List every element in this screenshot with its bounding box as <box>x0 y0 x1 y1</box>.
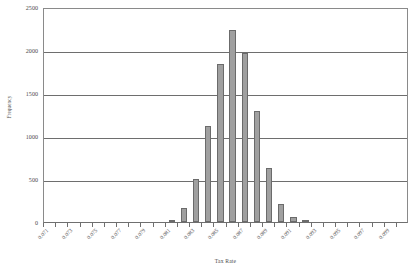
x-axis-tick <box>201 223 202 227</box>
x-axis-tick-label: 0.085 <box>204 228 221 245</box>
x-axis-tick <box>384 223 385 227</box>
bar <box>266 168 272 222</box>
y-axis-tick-label: 0 <box>12 220 38 226</box>
x-axis-tick-label: 0.081 <box>155 228 172 245</box>
x-axis-tick <box>335 223 336 227</box>
x-axis-tick-label: 0.083 <box>179 228 196 245</box>
y-axis-tick-label: 500 <box>12 177 38 183</box>
x-axis-tick <box>372 223 373 227</box>
x-axis-tick-label: 0.079 <box>131 228 148 245</box>
x-axis-tick <box>226 223 227 227</box>
x-axis-tick <box>311 223 312 227</box>
bar <box>290 217 296 222</box>
x-axis-tick-label: 0.077 <box>106 228 123 245</box>
bar <box>217 64 223 222</box>
x-axis-tick <box>177 223 178 227</box>
x-axis-tick <box>347 223 348 227</box>
y-axis-tick-label: 2000 <box>12 48 38 54</box>
x-axis-tick-label: 0.075 <box>82 228 99 245</box>
x-axis-tick <box>213 223 214 227</box>
bar <box>229 30 235 222</box>
x-axis-tick <box>104 223 105 227</box>
y-axis-tick-label: 1000 <box>12 134 38 140</box>
x-axis-tick <box>92 223 93 227</box>
x-axis-tick-labels: 0.0710.0730.0750.0770.0790.0810.0830.085… <box>43 228 408 256</box>
x-axis-tick <box>55 223 56 227</box>
x-axis-tick <box>250 223 251 227</box>
x-axis-tick <box>80 223 81 227</box>
y-axis-tick-label: 1500 <box>12 91 38 97</box>
plot-area <box>43 8 408 223</box>
x-axis-tick-label: 0.089 <box>252 228 269 245</box>
x-axis-tick <box>359 223 360 227</box>
x-axis-tick-label: 0.097 <box>350 228 367 245</box>
x-axis-tick <box>140 223 141 227</box>
histogram-chart: Frequency 25002000150010005000 0.0710.07… <box>0 0 415 272</box>
x-axis-tick <box>274 223 275 227</box>
x-axis-tick <box>43 223 44 227</box>
x-axis-title: Tax Rate <box>43 258 408 264</box>
x-axis-tick <box>396 223 397 227</box>
x-axis-tick <box>116 223 117 227</box>
x-axis-tick-label: 0.095 <box>325 228 342 245</box>
x-axis-tick <box>323 223 324 227</box>
y-axis-tick-label: 2500 <box>12 5 38 11</box>
bar <box>193 179 199 222</box>
x-axis-tick <box>262 223 263 227</box>
bar <box>169 220 175 222</box>
x-axis-tick-label: 0.087 <box>228 228 245 245</box>
x-axis-tick <box>128 223 129 227</box>
x-axis-tick <box>165 223 166 227</box>
x-axis-tick <box>299 223 300 227</box>
bar <box>278 204 284 222</box>
x-axis-tick-label: 0.073 <box>58 228 75 245</box>
y-axis-tick-labels: 25002000150010005000 <box>8 0 38 272</box>
bar-series <box>44 9 407 222</box>
x-axis-tick <box>67 223 68 227</box>
x-axis-tick <box>153 223 154 227</box>
bar <box>242 53 248 222</box>
x-axis-tick <box>286 223 287 227</box>
bar <box>254 111 260 222</box>
x-axis-tick-label: 0.099 <box>374 228 391 245</box>
bar <box>181 208 187 222</box>
bar <box>302 220 308 222</box>
x-axis-tick-label: 0.093 <box>301 228 318 245</box>
bar <box>205 126 211 222</box>
x-axis-tick <box>238 223 239 227</box>
x-axis-tick-label: 0.091 <box>277 228 294 245</box>
x-axis-tick <box>189 223 190 227</box>
